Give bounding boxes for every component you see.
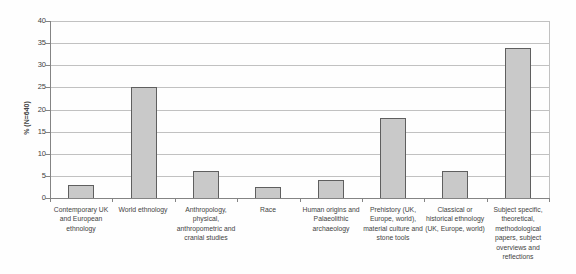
bar-chart-figure: % (N=640) 0510152025303540Contemporary U… xyxy=(0,0,576,274)
x-tick-mark-0 xyxy=(50,198,51,202)
gridline-10 xyxy=(50,154,549,155)
x-tick-mark-5 xyxy=(362,198,363,202)
y-tick-label-15: 15 xyxy=(14,127,46,137)
gridline-5 xyxy=(50,176,549,177)
x-tick-mark-1 xyxy=(112,198,113,202)
x-tick-mark-7 xyxy=(487,198,488,202)
x-category-label-7: Subject specific, theoretical, methodolo… xyxy=(487,205,549,261)
y-tick-label-30: 30 xyxy=(14,60,46,70)
bar-4 xyxy=(318,180,344,198)
x-category-label-5: Prehistory (UK, Europe, world), material… xyxy=(362,205,424,243)
gridline-35 xyxy=(50,43,549,44)
x-tick-mark-6 xyxy=(424,198,425,202)
y-tick-label-25: 25 xyxy=(14,82,46,92)
x-tick-mark-4 xyxy=(300,198,301,202)
y-tick-label-10: 10 xyxy=(14,149,46,159)
gridline-25 xyxy=(50,87,549,88)
x-category-label-2: Anthropology, physical, anthropometric a… xyxy=(175,205,237,243)
x-tick-mark-2 xyxy=(175,198,176,202)
gridline-20 xyxy=(50,110,549,111)
x-tick-mark-3 xyxy=(237,198,238,202)
y-tick-label-5: 5 xyxy=(14,171,46,181)
x-category-label-6: Classical or historical ethnology (UK, E… xyxy=(424,205,486,233)
x-category-label-1: World ethnology xyxy=(112,205,174,214)
x-tick-mark-8 xyxy=(549,198,550,202)
x-category-label-0: Contemporary UK and European ethnology xyxy=(50,205,112,233)
y-tick-label-0: 0 xyxy=(14,193,46,203)
gridline-15 xyxy=(50,132,549,133)
bar-0 xyxy=(68,185,94,198)
bar-1 xyxy=(131,87,157,198)
x-category-label-4: Human origins and Palaeolithic archaeolo… xyxy=(300,205,362,233)
y-tick-label-35: 35 xyxy=(14,38,46,48)
x-category-label-3: Race xyxy=(237,205,299,214)
bar-2 xyxy=(193,171,219,198)
bar-6 xyxy=(442,171,468,198)
plot-right-border xyxy=(549,21,550,198)
bar-5 xyxy=(380,118,406,198)
bar-3 xyxy=(255,187,281,198)
y-axis-line xyxy=(50,21,51,199)
gridline-40 xyxy=(50,21,549,22)
gridline-30 xyxy=(50,65,549,66)
y-tick-label-40: 40 xyxy=(14,16,46,26)
bar-7 xyxy=(505,48,531,198)
y-tick-label-20: 20 xyxy=(14,105,46,115)
